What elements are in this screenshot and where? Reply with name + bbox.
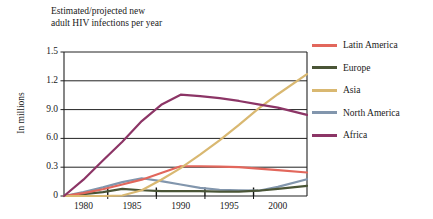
axes	[61, 52, 308, 196]
legend-item-latin-america[interactable]: Latin America	[312, 38, 398, 52]
y-axis-title: In millions	[16, 78, 26, 148]
legend-item-africa[interactable]: Africa	[312, 128, 367, 142]
x-axis-tick-label: 1985	[107, 201, 157, 211]
legend-swatch-icon	[312, 111, 337, 114]
legend-swatch-icon	[312, 66, 337, 69]
legend-item-label: Africa	[343, 130, 367, 140]
legend-item-label: Latin America	[343, 40, 398, 50]
legend-swatch-icon	[312, 44, 337, 47]
legend-item-label: Asia	[343, 85, 360, 95]
y-axis-tick-label: 0	[16, 190, 58, 200]
y-axis-tick-label: 0.3	[16, 161, 58, 171]
legend-item-asia[interactable]: Asia	[312, 83, 360, 97]
x-axis-tick-label: 1990	[156, 201, 206, 211]
series-lines	[64, 74, 307, 196]
x-axis-tick-label: 1980	[58, 201, 108, 211]
legend-item-europe[interactable]: Europe	[312, 61, 370, 75]
y-axis-tick-label: 1.5	[16, 46, 58, 56]
legend-item-label: Europe	[343, 63, 370, 73]
legend-item-north-america[interactable]: North America	[312, 106, 400, 120]
legend-swatch-icon	[312, 134, 337, 137]
legend-item-label: North America	[343, 108, 400, 118]
gridlines	[64, 52, 307, 196]
chart-legend: Latin AmericaEuropeAsiaNorth AmericaAfri…	[312, 38, 433, 158]
x-axis-tick-label: 1995	[204, 201, 254, 211]
x-axis-tick-label: 2000	[253, 201, 303, 211]
legend-swatch-icon	[312, 89, 337, 92]
chart-figure: Estimated/projected new adult HIV infect…	[0, 0, 433, 219]
